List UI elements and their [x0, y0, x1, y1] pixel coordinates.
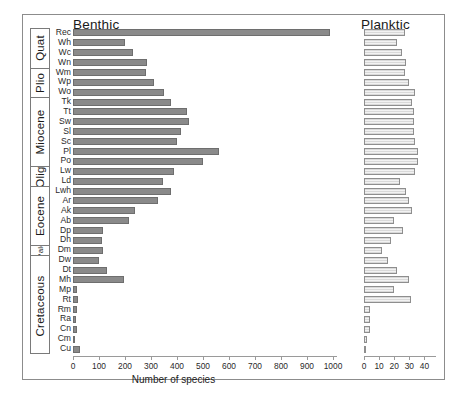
benthic-bar-mp [73, 286, 77, 293]
benthic-bar-ld [73, 178, 163, 185]
planktic-bar-wo [364, 89, 415, 96]
planktic-bar-ra [364, 316, 370, 323]
benthic-tick [333, 357, 334, 360]
benthic-bar-dp [73, 227, 103, 234]
planktic-tick [364, 357, 365, 360]
benthic-bar-rt [73, 296, 78, 303]
planktic-bar-rm [364, 306, 370, 313]
benthic-bars-area [73, 28, 333, 354]
benthic-bar-tk [73, 99, 171, 106]
planktic-bar-po [364, 158, 418, 165]
planktic-bar-dt [364, 267, 397, 274]
planktic-bar-cm [364, 336, 367, 343]
epoch-block-eocene: Eocene [31, 187, 49, 246]
planktic-bar-sl [364, 128, 414, 135]
epoch-block-quat: Quat [31, 29, 49, 69]
benthic-bar-ab [73, 217, 129, 224]
planktic-bar-lwh [364, 188, 406, 195]
benthic-bar-lw [73, 168, 174, 175]
benthic-tick [125, 357, 126, 360]
planktic-tick-label: 20 [390, 361, 399, 371]
benthic-bar-dt [73, 267, 107, 274]
benthic-tick [177, 357, 178, 360]
benthic-bar-lwh [73, 188, 171, 195]
benthic-bar-wh [73, 39, 125, 46]
benthic-tick [229, 357, 230, 360]
benthic-bar-ra [73, 316, 76, 323]
x-axis-title: Number of species [0, 374, 467, 385]
benthic-bar-mh [73, 276, 124, 283]
benthic-tick-label: 100 [92, 361, 106, 371]
stage-label-cu: Cu [60, 344, 71, 354]
benthic-tick [203, 357, 204, 360]
benthic-tick [255, 357, 256, 360]
benthic-bar-ar [73, 197, 158, 204]
planktic-bars-area [364, 28, 440, 354]
benthic-bar-sw [73, 118, 189, 125]
planktic-bar-wp [364, 79, 409, 86]
planktic-bar-ar [364, 197, 409, 204]
benthic-tick-label: 500 [196, 361, 210, 371]
planktic-bar-dp [364, 227, 403, 234]
planktic-tick-label: 40 [420, 361, 429, 371]
planktic-bar-tk [364, 99, 412, 106]
benthic-bar-cn [73, 326, 77, 333]
planktic-bar-cn [364, 326, 370, 333]
planktic-bar-wn [364, 59, 406, 66]
planktic-bar-mp [364, 286, 394, 293]
benthic-tick [307, 357, 308, 360]
benthic-bar-wm [73, 69, 146, 76]
planktic-bar-lw [364, 168, 415, 175]
epoch-axis: QuatPlioMioceneOligEocenePaleCretaceous [30, 28, 50, 354]
planktic-bar-tt [364, 108, 414, 115]
epoch-block-olig: Olig [31, 167, 49, 187]
epoch-label: Olig [34, 167, 46, 187]
planktic-tick [394, 357, 395, 360]
epoch-block-cretaceous: Cretaceous [31, 256, 49, 355]
benthic-bar-rec [73, 29, 330, 36]
benthic-tick-label: 1000 [324, 361, 343, 371]
benthic-tick-label: 200 [118, 361, 132, 371]
benthic-bar-sl [73, 128, 181, 135]
planktic-bar-wh [364, 39, 397, 46]
benthic-tick [73, 357, 74, 360]
epoch-block-pale: Pale [31, 246, 49, 256]
planktic-bar-rec [364, 29, 405, 36]
benthic-bar-dw [73, 257, 99, 264]
benthic-tick [281, 357, 282, 360]
x-axis-title-text: Number of species [132, 374, 215, 385]
planktic-bar-dw [364, 257, 388, 264]
benthic-tick [99, 357, 100, 360]
benthic-bar-cu [73, 346, 80, 353]
benthic-tick-label: 400 [170, 361, 184, 371]
benthic-axis-line [73, 356, 337, 357]
planktic-tick-label: 0 [362, 361, 367, 371]
epoch-label: Plio [34, 73, 46, 93]
planktic-tick-label: 30 [405, 361, 414, 371]
benthic-bar-pl [73, 148, 219, 155]
benthic-bar-rm [73, 306, 77, 313]
benthic-bar-tt [73, 108, 187, 115]
benthic-bar-ak [73, 207, 135, 214]
benthic-tick-label: 800 [274, 361, 288, 371]
planktic-bar-cu [364, 346, 366, 353]
planktic-tick [409, 357, 410, 360]
benthic-tick-label: 300 [144, 361, 158, 371]
benthic-bar-dh [73, 237, 102, 244]
epoch-block-plio: Plio [31, 69, 49, 99]
epoch-block-miocene: Miocene [31, 98, 49, 167]
benthic-bar-cm [73, 336, 75, 343]
planktic-bar-wm [364, 69, 405, 76]
planktic-bar-sw [364, 118, 414, 125]
benthic-bar-wo [73, 89, 164, 96]
epoch-label: Quat [34, 35, 46, 61]
planktic-tick [424, 357, 425, 360]
planktic-tick [379, 357, 380, 360]
planktic-bar-dh [364, 237, 391, 244]
epoch-label: Cretaceous [34, 275, 46, 336]
planktic-bar-ab [364, 217, 394, 224]
planktic-tick-label: 10 [374, 361, 383, 371]
planktic-bar-ld [364, 178, 400, 185]
planktic-bar-wc [364, 49, 402, 56]
benthic-tick-label: 600 [222, 361, 236, 371]
